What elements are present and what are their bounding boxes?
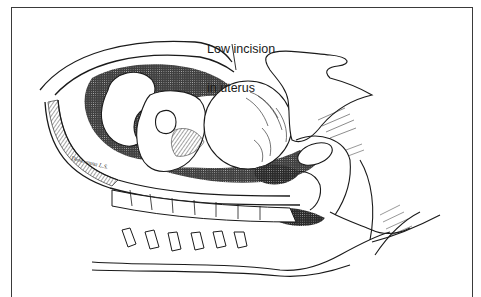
- baby-arm: [156, 110, 177, 133]
- pelvic-organs: [290, 136, 350, 215]
- incision-label-line1: Low incision: [207, 43, 275, 56]
- sacrum-shading: [346, 144, 412, 236]
- incision-label: Low incision in uterus: [207, 17, 275, 108]
- lower-contour: [92, 215, 440, 276]
- spine: [112, 190, 296, 251]
- incision-label-line2: in uterus: [207, 82, 275, 95]
